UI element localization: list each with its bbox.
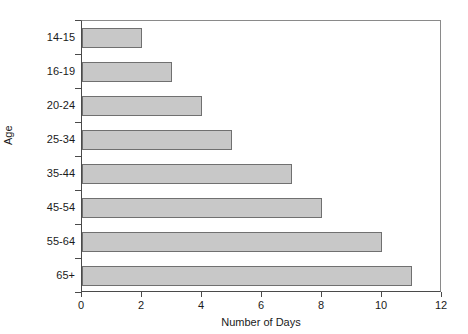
bar bbox=[82, 164, 292, 184]
y-axis-tick-label: 65+ bbox=[5, 269, 75, 281]
bar-chart: Age 14-1516-1920-2425-3435-4445-5455-646… bbox=[0, 0, 468, 334]
bar bbox=[82, 96, 202, 116]
x-axis-tick bbox=[441, 292, 442, 297]
y-axis-tick-label: 55-64 bbox=[5, 235, 75, 247]
bar-row bbox=[82, 225, 440, 259]
bar-row bbox=[82, 157, 440, 191]
bar-row bbox=[82, 89, 440, 123]
x-axis-tick-label: 6 bbox=[246, 299, 276, 311]
plot-area bbox=[81, 20, 441, 292]
bar-row bbox=[82, 259, 440, 293]
bar bbox=[82, 62, 172, 82]
x-axis-tick-label: 2 bbox=[126, 299, 156, 311]
x-axis-tick-label: 10 bbox=[366, 299, 396, 311]
y-axis-tick-label: 45-54 bbox=[5, 201, 75, 213]
bar bbox=[82, 28, 142, 48]
x-axis-tick-label: 0 bbox=[66, 299, 96, 311]
bar-row bbox=[82, 123, 440, 157]
y-axis-tick-label: 35-44 bbox=[5, 167, 75, 179]
bar-row bbox=[82, 191, 440, 225]
x-axis-tick-label: 4 bbox=[186, 299, 216, 311]
bar bbox=[82, 198, 322, 218]
bar-row bbox=[82, 55, 440, 89]
bar bbox=[82, 232, 382, 252]
bar bbox=[82, 266, 412, 286]
y-axis-tick-label: 14-15 bbox=[5, 31, 75, 43]
x-axis-tick-label: 12 bbox=[426, 299, 456, 311]
bar-row bbox=[82, 21, 440, 55]
y-axis-tick-label: 20-24 bbox=[5, 99, 75, 111]
y-axis-tick-label: 16-19 bbox=[5, 65, 75, 77]
y-axis-tick-label: 25-34 bbox=[5, 133, 75, 145]
bar bbox=[82, 130, 232, 150]
x-axis-tick-label: 8 bbox=[306, 299, 336, 311]
x-axis-title: Number of Days bbox=[81, 316, 441, 328]
